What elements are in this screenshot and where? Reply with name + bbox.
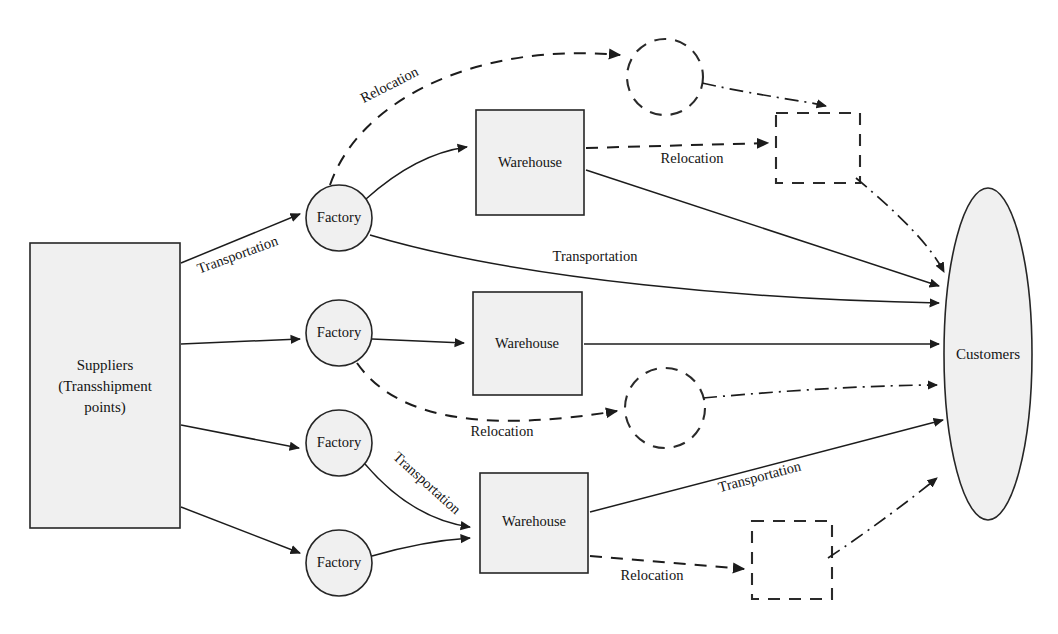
label-supplier-to-factory-transportation: Transportation: [195, 232, 281, 276]
edge-factory-1-to-warehouse-1[interactable]: [366, 147, 467, 199]
warehouse-3-label: Warehouse: [502, 513, 566, 529]
node-factory-2[interactable]: Factory: [306, 300, 372, 366]
node-warehouse-2[interactable]: Warehouse: [473, 292, 582, 395]
diagram-canvas: Suppliers (Transshipment points) Factory…: [0, 0, 1058, 634]
edge-factory-1-to-customers[interactable]: [370, 235, 939, 303]
edge-factory-4-to-warehouse-3[interactable]: [372, 538, 470, 556]
customers-label: Customers: [956, 346, 1020, 362]
label-factory-to-warehouse-transportation: Transportation: [390, 448, 464, 517]
node-factory-1[interactable]: Factory: [306, 185, 372, 251]
factory-3-label: Factory: [317, 434, 362, 450]
edge-warehouse-1-to-customers[interactable]: [586, 170, 939, 286]
node-warehouse-3[interactable]: Warehouse: [480, 473, 588, 573]
node-customers[interactable]: Customers: [944, 188, 1032, 520]
label-factory-relocation-mid: Relocation: [471, 423, 535, 439]
edge-relocated-circle-mid-to-customers[interactable]: [703, 385, 937, 398]
warehouse-2-label: Warehouse: [495, 335, 559, 351]
edge-relocated-square-bottom-to-customers[interactable]: [828, 478, 937, 558]
factory-4-label: Factory: [317, 554, 362, 570]
relocated-facility-circle-top[interactable]: [627, 39, 703, 115]
label-factory-to-customer-transportation: Transportation: [553, 248, 639, 264]
edge-suppliers-to-factory-3[interactable]: [181, 425, 299, 448]
suppliers-label-line2: (Transshipment: [58, 378, 152, 395]
warehouse-1-label: Warehouse: [498, 154, 562, 170]
label-warehouse-relocation-bottom: Relocation: [621, 567, 685, 583]
edge-relocated-square-top-to-customers[interactable]: [856, 178, 944, 272]
edge-factory-2-to-warehouse-2[interactable]: [372, 339, 464, 343]
edge-suppliers-to-factory-2[interactable]: [181, 339, 300, 344]
node-factory-4[interactable]: Factory: [306, 530, 372, 596]
factory-1-label: Factory: [317, 209, 362, 225]
label-warehouse-relocation-top: Relocation: [661, 150, 725, 166]
label-warehouse-to-customer-transportation: Transportation: [717, 457, 804, 495]
relocated-facility-square-bottom[interactable]: [752, 521, 832, 599]
relocated-facility-circle-mid[interactable]: [625, 368, 705, 448]
node-factory-3[interactable]: Factory: [306, 410, 372, 476]
factory-2-label: Factory: [317, 324, 362, 340]
suppliers-label-line3: points): [84, 399, 126, 416]
node-warehouse-1[interactable]: Warehouse: [476, 110, 584, 215]
relocated-facility-square-top[interactable]: [776, 113, 860, 183]
edge-relocated-circle-top-to-square-top[interactable]: [702, 83, 826, 106]
edge-suppliers-to-factory-4[interactable]: [181, 507, 300, 553]
suppliers-label-line1: Suppliers: [77, 357, 134, 373]
node-suppliers[interactable]: Suppliers (Transshipment points): [30, 243, 180, 528]
edge-warehouse-1-relocation[interactable]: [586, 143, 768, 148]
label-factory-relocation-top: Relocation: [358, 63, 422, 106]
supply-chain-diagram: Suppliers (Transshipment points) Factory…: [0, 0, 1058, 634]
